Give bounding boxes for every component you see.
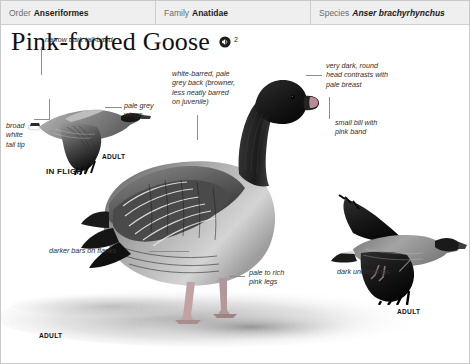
- annotation-dark-underwings: dark underwings: [337, 267, 390, 276]
- leader-line-dark-head: [306, 75, 322, 76]
- taxonomy-value-order: Anseriformes: [34, 8, 89, 18]
- leader-line-pink-legs: [229, 276, 245, 277]
- annotation-white-barred-back: white-barred, pale grey back (browner, l…: [172, 69, 235, 106]
- taxonomy-cell-species: Species Anser brachyrhynchus: [311, 1, 470, 24]
- annotation-tail-band: narrow dark tail-band: [45, 35, 113, 44]
- taxonomy-value-species: Anser brachyrhynchus: [352, 8, 445, 18]
- caption-adult-right: ADULT: [397, 308, 420, 315]
- leader-line-small-bill: [329, 97, 330, 119]
- caption-adult-in-flight: ADULT: [102, 153, 125, 160]
- annotation-small-bill-pink-band: small bill with pink band: [335, 118, 377, 137]
- annotation-dark-round-head: very dark, round head contrasts with pal…: [326, 61, 388, 89]
- leader-line-darker-bars: [149, 251, 189, 252]
- leader-line-broad-white-h: [34, 119, 50, 120]
- leader-line-broad-white: [49, 99, 50, 119]
- taxonomy-label-order: Order: [9, 8, 31, 18]
- taxonomy-header: Order Anseriformes Family Anatidae Speci…: [1, 1, 470, 25]
- bird-in-flight-underside: [331, 193, 467, 305]
- annotation-broad-white-tail-tip: broad white tail tip: [6, 121, 25, 149]
- leader-line-pale-grey: [105, 107, 122, 108]
- illustration-plate: narrow dark tail-band broad white tail t…: [1, 25, 469, 363]
- leader-line-white-barred: [197, 115, 198, 140]
- taxonomy-cell-order: Order Anseriformes: [1, 1, 156, 24]
- leader-line-tail-band: [41, 47, 42, 75]
- caption-adult-standing: ADULT: [39, 332, 62, 339]
- annotation-pale-grey-wings: pale grey wings: [124, 101, 154, 120]
- taxonomy-cell-family: Family Anatidae: [156, 1, 311, 24]
- taxonomy-value-family: Anatidae: [192, 8, 228, 18]
- annotation-darker-bars-flanks: darker bars on flanks: [49, 246, 116, 255]
- taxonomy-label-species: Species: [319, 8, 349, 18]
- bird-standing-adult: [79, 70, 319, 325]
- annotation-pink-legs: pale to rich pink legs: [249, 268, 284, 287]
- caption-in-flight: IN FLIGHT: [46, 167, 88, 176]
- species-plate-page: Order Anseriformes Family Anatidae Speci…: [0, 0, 470, 364]
- taxonomy-label-family: Family: [164, 8, 189, 18]
